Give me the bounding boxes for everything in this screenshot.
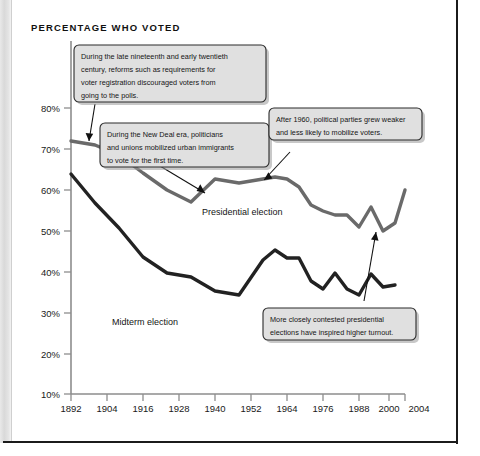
y-tick-label-10: 10% (41, 389, 61, 400)
x-tick-label-1916: 1916 (132, 403, 153, 414)
series-label-presidential: Presidential election (202, 207, 283, 217)
callout-new-deal[interactable]: During the New Deal era, politicians and… (100, 123, 272, 170)
x-tick-label-1940: 1940 (204, 403, 225, 414)
callout-reforms-line-1: During the late nineteenth and early twe… (81, 52, 228, 61)
callout-reforms-line-2: century, reforms such as requirements fo… (81, 65, 216, 74)
x-tick-label-1904: 1904 (96, 403, 117, 414)
callout-contested-line-1: More closely contested presidential (270, 315, 384, 324)
x-axis-ticks: 1892 1904 1916 1928 1940 1952 1964 1976 … (60, 394, 429, 414)
x-tick-label-1952: 1952 (240, 403, 261, 414)
leader-arrow-reforms (86, 133, 94, 141)
callout-reforms[interactable]: During the late nineteenth and early twe… (74, 45, 269, 105)
y-tick-label-50: 50% (41, 226, 61, 237)
y-tick-label-70: 70% (41, 144, 61, 155)
series-label-midterm: Midterm election (112, 317, 178, 327)
callout-contested-line-2: elections have inspired higher turnout. (270, 328, 393, 337)
callout-reforms-line-4: going to the polls. (81, 91, 138, 100)
callout-new-deal-line-1: During the New Deal era, politicians (107, 130, 223, 139)
series-line-midterm (71, 174, 395, 295)
y-axis-ticks: 80% 70% 60% 50% 40% 30% 20% 10% (41, 103, 71, 400)
callout-new-deal-line-2: and unions mobilized urban immigrants (107, 143, 234, 152)
y-tick-label-20: 20% (41, 349, 61, 360)
y-tick-label-40: 40% (41, 267, 61, 278)
callout-contested[interactable]: More closely contested presidential elec… (263, 308, 419, 343)
leader-line-contested (364, 232, 376, 301)
x-tick-label-2000: 2000 (378, 403, 399, 414)
leader-arrow-contested (371, 232, 379, 241)
y-tick-label-30: 30% (41, 308, 61, 319)
x-tick-label-1928: 1928 (168, 403, 189, 414)
x-tick-label-1964: 1964 (276, 403, 297, 414)
voter-turnout-line-chart: 80% 70% 60% 50% 40% 30% 20% 10% 1892 190… (0, 0, 480, 456)
x-tick-label-1976: 1976 (312, 403, 333, 414)
callout-new-deal-line-3: to vote for the first time. (107, 156, 183, 165)
x-tick-label-2004: 2004 (408, 403, 429, 414)
callout-after-1960-line-1: After 1960, political parties grew weake… (276, 115, 406, 124)
callout-after-1960[interactable]: After 1960, political parties grew weake… (269, 108, 425, 143)
chart-page: PERCENTAGE WHO VOTED 80% 70% 60% 50% 40%… (0, 0, 480, 456)
y-tick-label-80: 80% (41, 103, 61, 114)
callout-reforms-line-3: voter registration discouraged voters fr… (81, 78, 216, 87)
x-tick-label-1892: 1892 (60, 403, 81, 414)
callout-after-1960-line-2: and less likely to mobilize voters. (276, 128, 382, 137)
x-tick-label-1988: 1988 (348, 403, 369, 414)
y-tick-label-60: 60% (41, 185, 61, 196)
